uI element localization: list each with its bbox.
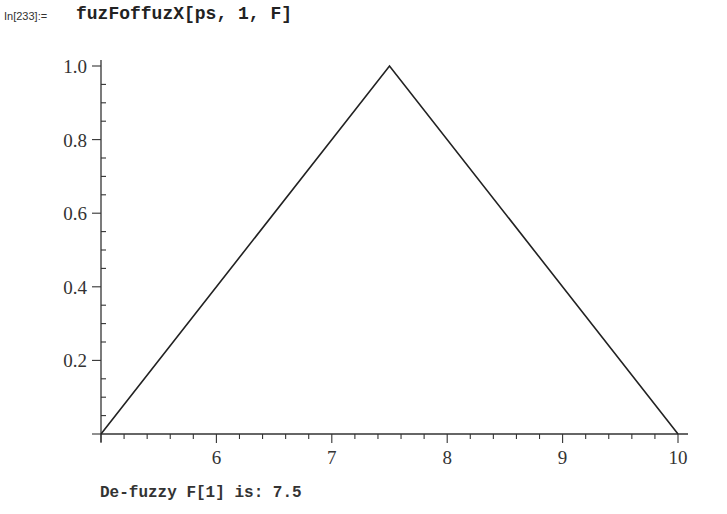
y-tick-label: 1.0	[63, 56, 87, 77]
y-tick-label: 0.6	[63, 203, 87, 224]
x-tick-label: 6	[212, 447, 222, 468]
x-tick-label: 7	[327, 447, 337, 468]
plot-axes: 6789100.20.40.60.81.0	[63, 56, 688, 468]
x-tick-label: 9	[558, 447, 568, 468]
y-tick-label: 0.4	[63, 277, 87, 298]
y-tick-label: 0.8	[63, 130, 87, 151]
y-tick-label: 0.2	[63, 350, 87, 371]
defuzzy-output-text: De-fuzzy F[1] is: 7.5	[100, 484, 302, 502]
membership-plot: 6789100.20.40.60.81.0	[0, 0, 727, 514]
triangle-membership-line	[101, 66, 678, 434]
x-tick-label: 8	[442, 447, 452, 468]
x-tick-label: 10	[669, 447, 688, 468]
